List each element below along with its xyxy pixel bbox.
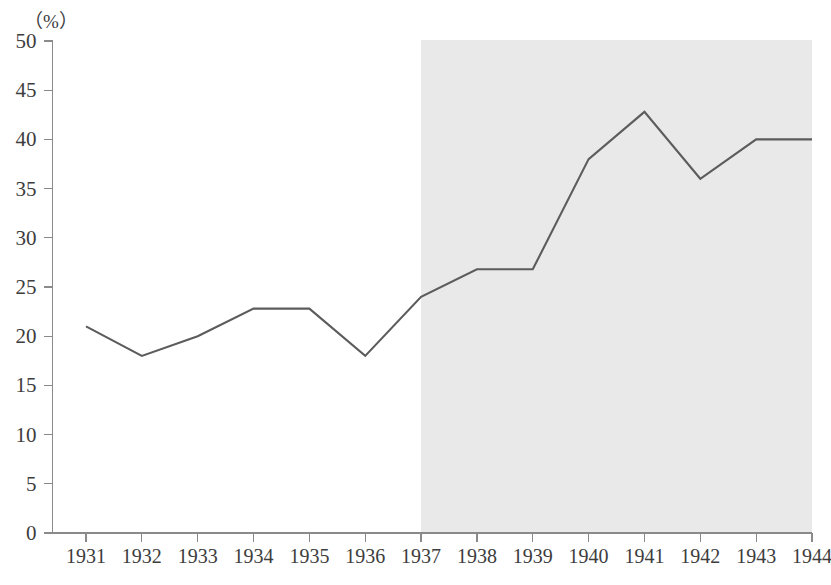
x-axis-tick-label: 1931 [66, 545, 106, 567]
x-axis-tick-group: 1931193219331934193519361937193819391940… [66, 533, 831, 567]
y-axis-tick-label: 0 [26, 521, 37, 545]
y-axis-tick-label: 40 [16, 127, 37, 151]
x-axis-tick-label: 1940 [569, 545, 609, 567]
x-axis-tick-label: 1944 [792, 545, 831, 567]
x-axis-tick-label: 1939 [513, 545, 553, 567]
y-axis-tick-label: 50 [16, 29, 37, 53]
x-axis-tick-label: 1941 [624, 545, 664, 567]
x-axis-tick-label: 1942 [680, 545, 720, 567]
y-axis-tick-group: 05101520253035404550 [16, 29, 53, 545]
x-axis-tick-label: 1938 [457, 545, 497, 567]
y-axis-tick-label: 20 [16, 324, 37, 348]
wartime-shading-region [421, 40, 812, 533]
x-axis-tick-label: 1933 [178, 545, 218, 567]
y-axis-tick-label: 10 [16, 423, 37, 447]
x-axis-tick-label: 1934 [234, 545, 274, 567]
y-axis-tick-label: 5 [26, 472, 37, 496]
line-chart: （%） 05101520253035404550 193119321933193… [0, 0, 831, 585]
x-axis-tick-label: 1932 [122, 545, 162, 567]
x-axis-tick-label: 1943 [736, 545, 776, 567]
y-axis-tick-label: 15 [16, 373, 37, 397]
x-axis-tick-label: 1937 [401, 545, 441, 567]
x-axis-tick-label: 1936 [345, 545, 385, 567]
y-axis-tick-label: 25 [16, 275, 37, 299]
x-axis-tick-label: 1935 [289, 545, 329, 567]
y-axis-tick-label: 30 [16, 226, 37, 250]
chart-page: （%） 05101520253035404550 193119321933193… [0, 0, 831, 585]
y-axis-tick-label: 45 [16, 78, 37, 102]
y-axis-tick-label: 35 [16, 177, 37, 201]
